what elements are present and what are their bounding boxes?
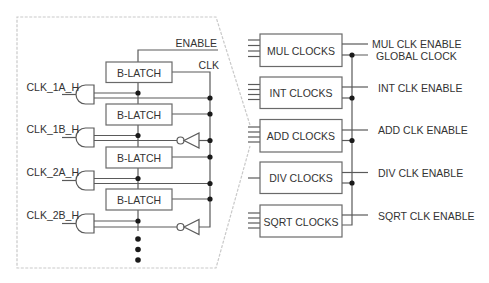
input-stubs <box>248 85 260 100</box>
junction-dot <box>207 196 212 201</box>
input-stubs <box>248 40 260 57</box>
callout-border <box>17 17 250 268</box>
inverter-2 <box>177 220 199 235</box>
b-latch-3: B-LATCH <box>106 147 172 168</box>
inverter-triangle-icon <box>184 220 199 235</box>
and-gate-3: CLK_2A_H <box>26 166 210 190</box>
junction-dot <box>349 138 354 143</box>
output-label: MUL CLK ENABLE <box>372 38 461 50</box>
global-clock-label: GLOBAL CLOCK <box>376 50 457 62</box>
junction-dot <box>135 176 140 181</box>
junction-dot <box>135 133 140 138</box>
and-gate-1: CLK_1A_H <box>26 81 210 104</box>
input-label: CLK_1A_H <box>26 81 79 93</box>
mul-clocks-block: MUL CLOCKS MUL CLK ENABLE GLOBAL CLOCK <box>248 34 461 67</box>
junction-dot <box>207 95 212 100</box>
junction-dot <box>349 52 354 57</box>
vertical-ellipsis-icon <box>135 236 141 263</box>
junction-dot <box>207 181 212 186</box>
input-label: CLK_2A_H <box>26 166 79 178</box>
output-label: DIV CLK ENABLE <box>378 167 463 179</box>
output-label: ADD CLK ENABLE <box>378 124 468 136</box>
junction-dot <box>349 95 354 100</box>
inverter-1 <box>177 133 210 148</box>
and-gate-4: CLK_2B_H <box>26 209 177 233</box>
input-label: CLK_2B_H <box>26 209 79 221</box>
left-panel: ENABLE CLK B-LATCH B-LATCH B-LATCH B-LAT… <box>26 37 219 263</box>
block-label: SQRT CLOCKS <box>264 216 339 228</box>
b-latch-label: B-LATCH <box>117 152 161 164</box>
input-label: CLK_1B_H <box>26 123 79 135</box>
int-clocks-block: INT CLOCKS INT CLK ENABLE <box>248 77 462 109</box>
div-clocks-block: DIV CLOCKS DIV CLK ENABLE <box>248 162 463 194</box>
b-latch-2: B-LATCH <box>106 104 172 125</box>
b-latch-label: B-LATCH <box>117 67 161 79</box>
junction-dot <box>135 90 140 95</box>
clock-gating-diagram: ENABLE CLK B-LATCH B-LATCH B-LATCH B-LAT… <box>0 0 489 283</box>
b-latch-label: B-LATCH <box>117 109 161 121</box>
junction-dot <box>349 180 354 185</box>
block-label: MUL CLOCKS <box>267 45 335 57</box>
block-label: INT CLOCKS <box>270 87 333 99</box>
inverter-triangle-icon <box>184 133 199 148</box>
and-gate-2: CLK_1B_H <box>26 123 177 147</box>
block-label: DIV CLOCKS <box>269 172 333 184</box>
add-clocks-block: ADD CLOCKS ADD CLK ENABLE <box>248 120 468 153</box>
input-stubs <box>248 127 260 142</box>
input-stubs <box>248 213 260 228</box>
right-panel: MUL CLOCKS MUL CLK ENABLE GLOBAL CLOCK I… <box>248 34 474 237</box>
b-latch-1: B-LATCH <box>106 62 172 83</box>
output-label: INT CLK ENABLE <box>378 82 462 94</box>
clk-bus <box>172 72 210 227</box>
b-latch-label: B-LATCH <box>117 194 161 206</box>
block-label: ADD CLOCKS <box>267 130 335 142</box>
b-latch-4: B-LATCH <box>106 189 172 210</box>
output-label: SQRT CLK ENABLE <box>378 210 474 222</box>
junction-dot <box>135 218 140 223</box>
junction-dot <box>207 154 212 159</box>
sqrt-clocks-block: SQRT CLOCKS SQRT CLK ENABLE <box>248 205 474 237</box>
clk-label: CLK <box>199 59 219 71</box>
junction-dot <box>207 111 212 116</box>
junction-dot <box>207 138 212 143</box>
enable-label: ENABLE <box>176 37 217 49</box>
